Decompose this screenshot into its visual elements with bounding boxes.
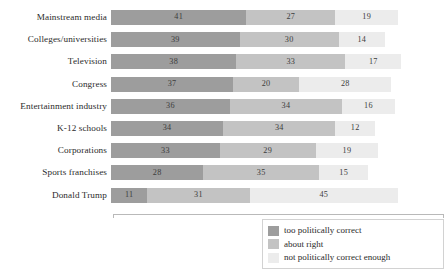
- bar-track: 412719: [111, 10, 448, 25]
- legend-item-about-right: about right: [268, 238, 438, 252]
- bar-track: 383317: [111, 54, 448, 69]
- bar-value-label: 12: [351, 124, 360, 132]
- legend-swatch-icon: [268, 226, 279, 236]
- chart-row: Entertainment industry363416: [0, 99, 448, 114]
- x-axis-line: [113, 214, 443, 215]
- bar-segment: 28: [299, 77, 391, 92]
- category-label: Donald Trump: [0, 188, 111, 203]
- bar-track: 363416: [111, 99, 448, 114]
- bar-value-label: 14: [357, 36, 366, 44]
- bar-value-label: 28: [153, 169, 162, 177]
- bar-value-label: 41: [174, 13, 183, 21]
- chart-row: Colleges/universities393014: [0, 32, 448, 47]
- bar-segment: 35: [203, 165, 319, 180]
- bar-value-label: 27: [286, 13, 295, 21]
- bar-value-label: 45: [319, 191, 328, 199]
- bar-segment: 11: [111, 188, 147, 203]
- chart-row: Corporations332919: [0, 143, 448, 158]
- bar-segment: 37: [111, 77, 233, 92]
- bar-segment: 14: [339, 32, 385, 47]
- bar-segment: 38: [111, 54, 236, 69]
- bar-segment: 17: [345, 54, 401, 69]
- bar-track: 343412: [111, 121, 448, 136]
- bar-value-label: 11: [125, 191, 133, 199]
- bar-value-label: 33: [286, 58, 295, 66]
- bar-value-label: 31: [194, 191, 203, 199]
- bar-value-label: 34: [281, 102, 290, 110]
- bar-segment: 34: [111, 121, 223, 136]
- bar-segment: 15: [319, 165, 369, 180]
- bar-value-label: 34: [275, 124, 284, 132]
- bar-value-label: 29: [263, 147, 272, 155]
- legend-item-label: too politically correct: [284, 224, 361, 238]
- legend-item-not-politically-correct-enough: not politically correct enough: [268, 251, 438, 265]
- bar-segment: 34: [230, 99, 342, 114]
- chart-row: Television383317: [0, 54, 448, 69]
- legend-item-label: not politically correct enough: [284, 251, 390, 265]
- bar-value-label: 19: [362, 13, 371, 21]
- bar-value-label: 28: [341, 80, 350, 88]
- bar-segment: 41: [111, 10, 246, 25]
- legend-swatch-icon: [268, 253, 279, 263]
- bar-value-label: 37: [168, 80, 177, 88]
- category-label: Corporations: [0, 143, 111, 158]
- bar-value-label: 19: [343, 147, 352, 155]
- bar-value-label: 16: [364, 102, 373, 110]
- bar-value-label: 15: [339, 169, 348, 177]
- bar-track: 332919: [111, 143, 448, 158]
- bar-segment: 31: [147, 188, 249, 203]
- category-label: Television: [0, 54, 111, 69]
- stacked-bar-chart: Mainstream media412719Colleges/universit…: [0, 0, 448, 276]
- bar-value-label: 38: [169, 58, 178, 66]
- bar-segment: 33: [111, 143, 220, 158]
- bar-segment: 39: [111, 32, 240, 47]
- legend-item-label: about right: [284, 238, 323, 252]
- bar-value-label: 30: [285, 36, 294, 44]
- bar-segment: 33: [236, 54, 345, 69]
- bar-segment: 19: [316, 143, 379, 158]
- bar-value-label: 39: [171, 36, 180, 44]
- bar-segment: 36: [111, 99, 230, 114]
- bar-segment: 45: [250, 188, 399, 203]
- bar-track: 393014: [111, 32, 448, 47]
- chart-row: Donald Trump113145: [0, 188, 448, 203]
- bar-segment: 28: [111, 165, 203, 180]
- bar-track: 113145: [111, 188, 448, 203]
- chart-row: Sports franchises283515: [0, 165, 448, 180]
- category-label: Sports franchises: [0, 165, 111, 180]
- bar-value-label: 36: [166, 102, 175, 110]
- bar-segment: 30: [240, 32, 339, 47]
- chart-legend: too politically correct about right not …: [262, 219, 444, 269]
- chart-row: K-12 schools343412: [0, 121, 448, 136]
- chart-row: Mainstream media412719: [0, 10, 448, 25]
- chart-row: Congress372028: [0, 77, 448, 92]
- bar-segment: 19: [335, 10, 398, 25]
- x-axis-tick: [113, 214, 114, 218]
- plot-area: Mainstream media412719Colleges/universit…: [0, 6, 448, 214]
- bar-track: 283515: [111, 165, 448, 180]
- bar-segment: 29: [220, 143, 316, 158]
- bar-segment: 27: [246, 10, 335, 25]
- bar-segment: 34: [223, 121, 335, 136]
- bar-value-label: 34: [163, 124, 172, 132]
- category-label: Entertainment industry: [0, 99, 111, 114]
- x-axis-tick: [443, 214, 444, 218]
- bar-value-label: 20: [262, 80, 271, 88]
- bar-value-label: 35: [257, 169, 266, 177]
- category-label: K-12 schools: [0, 121, 111, 136]
- category-label: Congress: [0, 77, 111, 92]
- category-label: Mainstream media: [0, 10, 111, 25]
- bar-value-label: 33: [161, 147, 170, 155]
- bar-segment: 20: [233, 77, 299, 92]
- legend-item-too-politically-correct: too politically correct: [268, 224, 438, 238]
- bar-track: 372028: [111, 77, 448, 92]
- bar-segment: 12: [335, 121, 375, 136]
- category-label: Colleges/universities: [0, 32, 111, 47]
- bar-segment: 16: [342, 99, 395, 114]
- legend-swatch-icon: [268, 239, 279, 249]
- bar-value-label: 17: [369, 58, 378, 66]
